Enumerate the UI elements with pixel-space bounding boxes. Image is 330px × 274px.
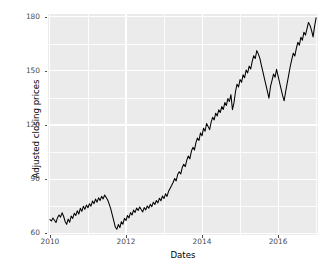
x-axis-title: Dates — [48, 250, 318, 260]
y-tick-label: 120 — [14, 121, 40, 129]
y-tick-mark — [45, 17, 48, 18]
x-tick-mark — [50, 235, 51, 238]
y-tick-label: 90 — [14, 175, 40, 183]
y-tick-mark — [45, 233, 48, 234]
x-tick-label: 2012 — [106, 238, 146, 246]
y-tick-mark — [45, 179, 48, 180]
y-tick-label: 180 — [14, 13, 40, 21]
price-line — [50, 18, 316, 229]
series-layer — [48, 14, 318, 235]
x-tick-label: 2016 — [258, 238, 298, 246]
plot-panel — [48, 14, 318, 235]
y-tick-label: 150 — [14, 67, 40, 75]
x-tick-label: 2014 — [182, 238, 222, 246]
x-tick-mark — [126, 235, 127, 238]
y-tick-mark — [45, 71, 48, 72]
x-tick-label: 2010 — [30, 238, 70, 246]
chart-root: Adjusted closing prices 6090120150180 20… — [0, 0, 330, 274]
x-tick-mark — [202, 235, 203, 238]
x-tick-mark — [278, 235, 279, 238]
y-tick-mark — [45, 125, 48, 126]
y-tick-label: 60 — [14, 229, 40, 237]
